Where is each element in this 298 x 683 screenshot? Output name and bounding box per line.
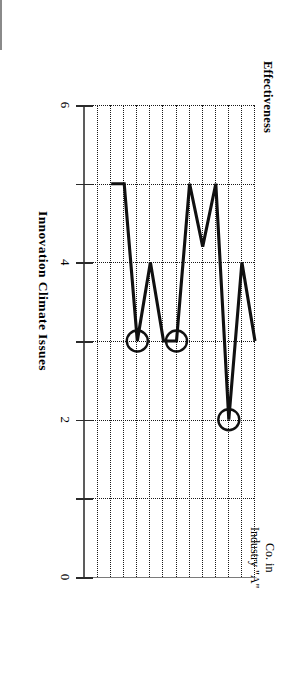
value-axis-title: Effectiveness (260, 61, 275, 133)
figure-inner: Effectiveness Innovation Climate Issues … (19, 61, 279, 621)
category-axis-title: Innovation Climate Issues (35, 211, 51, 371)
value-tick-0 (76, 577, 93, 579)
value-tick-label-6: 6 (57, 91, 73, 119)
series-line-layer (85, 105, 255, 577)
value-tick-label-0: 0 (57, 563, 73, 591)
series-line-0 (111, 184, 255, 420)
value-tick-label-2: 2 (57, 406, 73, 434)
plot-right-border (84, 577, 255, 578)
value-tick-label-4: 4 (57, 248, 73, 276)
page-edge-artifact (0, 0, 2, 50)
rotated-figure-canvas: Effectiveness Innovation Climate Issues … (19, 61, 279, 621)
